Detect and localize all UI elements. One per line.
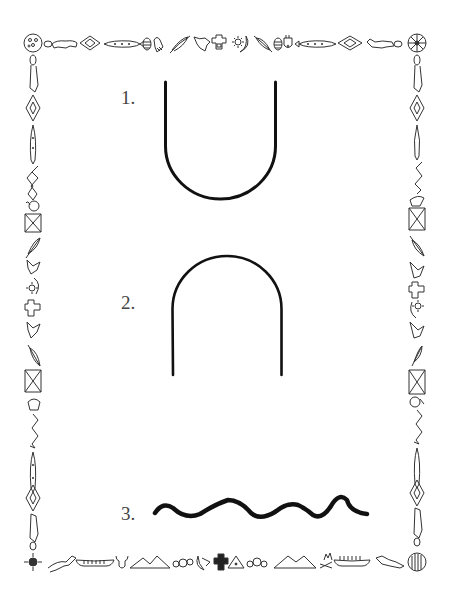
wavy-line-shape: [155, 497, 367, 517]
worksheet-page: 1. 2. 3.: [0, 0, 450, 599]
tracing-shapes: [0, 0, 450, 599]
arch-curve-shape: [173, 256, 282, 375]
u-curve-shape: [166, 82, 276, 199]
